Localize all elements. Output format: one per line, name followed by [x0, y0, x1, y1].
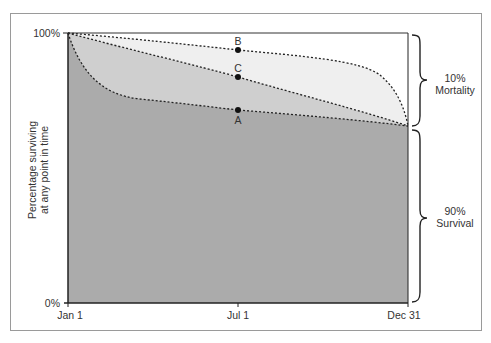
mortality-bracket — [412, 35, 427, 126]
survival-label: Survival — [436, 217, 473, 229]
survival-pct: 90% — [444, 205, 465, 217]
point-label-a: A — [234, 114, 241, 126]
mortality-label: Mortality — [435, 84, 475, 96]
x-tick-label-jul: Jul 1 — [227, 309, 249, 321]
y-axis-title-line1: Percentage surviving — [26, 121, 38, 219]
point-b — [235, 47, 241, 53]
x-tick-label-dec: Dec 31 — [387, 309, 420, 321]
x-tick-label-jan: Jan 1 — [57, 309, 83, 321]
point-c — [235, 74, 241, 80]
y-tick-label-100: 100% — [33, 27, 60, 39]
point-label-b: B — [234, 35, 241, 47]
point-label-c: C — [234, 62, 242, 74]
survival-bracket — [412, 130, 427, 302]
mortality-pct: 10% — [444, 72, 465, 84]
survival-chart: B C A 100% 0% Jan 1 Jul 1 Dec 31 Percent… — [0, 0, 491, 343]
point-a — [235, 107, 241, 113]
y-tick-label-0: 0% — [45, 297, 60, 309]
y-axis-title-line2: at any point in time — [38, 126, 50, 214]
y-axis-title: Percentage surviving at any point in tim… — [26, 121, 50, 219]
